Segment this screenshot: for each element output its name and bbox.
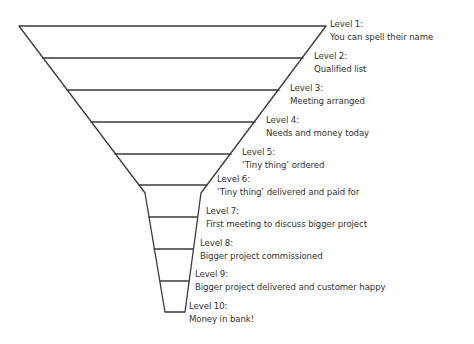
level-3-label: Level 3: Meeting arranged [290,82,365,107]
level-description: Meeting arranged [290,95,365,108]
level-description: Money in bank! [189,313,254,326]
level-title: Level 8: [200,237,323,250]
level-title: Level 4: [266,114,369,127]
level-7-label: Level 7: First meeting to discuss bigger… [206,205,367,230]
level-title: Level 5: [242,146,324,159]
level-2-label: Level 2: Qualified list [314,50,366,75]
level-1-label: Level 1: You can spell their name [330,18,433,43]
level-title: Level 10: [189,300,254,313]
level-title: Level 6: [217,173,359,186]
level-description: Needs and money today [266,127,369,140]
level-description: Bigger project delivered and customer ha… [195,281,386,294]
level-description: You can spell their name [330,31,433,44]
level-title: Level 2: [314,50,366,63]
level-5-label: Level 5: ‘Tiny thing’ ordered [242,146,324,171]
level-description: Bigger project commissioned [200,250,323,263]
level-9-label: Level 9: Bigger project delivered and cu… [195,268,386,293]
level-6-label: Level 6: ‘Tiny thing’ delivered and paid… [217,173,359,198]
level-description: ‘Tiny thing’ delivered and paid for [217,186,359,199]
level-description: First meeting to discuss bigger project [206,218,367,231]
level-description: ‘Tiny thing’ ordered [242,159,324,172]
level-title: Level 1: [330,18,433,31]
level-title: Level 7: [206,205,367,218]
level-description: Qualified list [314,63,366,76]
level-4-label: Level 4: Needs and money today [266,114,369,139]
level-8-label: Level 8: Bigger project commissioned [200,237,323,262]
level-title: Level 3: [290,82,365,95]
level-title: Level 9: [195,268,386,281]
level-10-label: Level 10: Money in bank! [189,300,254,325]
